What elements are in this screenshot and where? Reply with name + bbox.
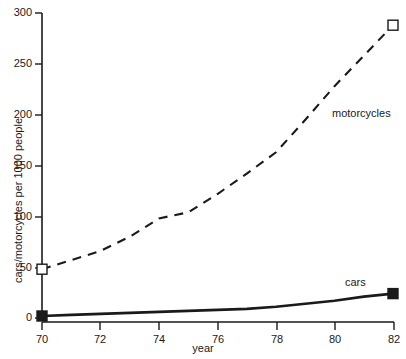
series-label-cars: cars: [345, 277, 366, 288]
data-point-marker-cars-start: [37, 311, 47, 321]
data-series-group: [37, 20, 398, 321]
y-tick-label-250: 250: [2, 58, 32, 69]
x-axis-ticks: [42, 322, 394, 330]
axes-group: [35, 13, 394, 330]
x-axis-title: year: [0, 343, 406, 354]
series-label-motorcycles: motorcycles: [332, 108, 391, 119]
y-axis-title: cars/motorcycles per 1000 people: [13, 91, 24, 311]
y-tick-label-0: 0: [2, 312, 32, 323]
series-line-motorcycles: [42, 25, 393, 269]
data-point-marker-motorcycles-start: [37, 264, 47, 274]
data-point-marker-cars-end: [388, 289, 398, 299]
chart-figure: 300 250 200 150 100 50 0 70 72 74 76 78 …: [0, 0, 406, 359]
series-line-cars: [42, 294, 393, 316]
y-tick-label-300: 300: [2, 7, 32, 18]
chart-plot-area: [0, 0, 406, 359]
data-point-marker-motorcycles-end: [388, 20, 398, 30]
